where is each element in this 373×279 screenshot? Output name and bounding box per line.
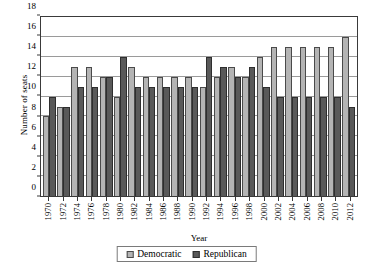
x-tick-label-1996: 1996 xyxy=(230,203,240,220)
caption-strip xyxy=(0,272,373,279)
x-label-cell-1996: 1996 xyxy=(228,201,242,235)
y-tick-mark-12 xyxy=(37,75,40,76)
x-tick-label-1978: 1978 xyxy=(101,203,111,220)
bar-republican-2004 xyxy=(292,97,298,196)
bar-republican-1990 xyxy=(192,87,198,196)
legend-item-democratic[interactable]: Democratic xyxy=(126,249,181,259)
y-tick-mark-14 xyxy=(37,55,40,56)
y-tick-label-4: 4 xyxy=(32,142,37,152)
bar-group-1982 xyxy=(128,17,142,196)
x-tick-label-2000: 2000 xyxy=(259,203,269,220)
bar-group-2008 xyxy=(313,17,327,196)
x-tick-label-1990: 1990 xyxy=(187,203,197,220)
x-tick-label-2004: 2004 xyxy=(287,203,297,220)
y-tick-label-10: 10 xyxy=(27,81,36,91)
y-tick-label-16: 16 xyxy=(27,21,36,31)
x-label-cell-2010: 2010 xyxy=(328,201,342,235)
bar-republican-1984 xyxy=(149,87,155,196)
bar-republican-2006 xyxy=(306,97,312,196)
x-label-cell-2004: 2004 xyxy=(285,201,299,235)
bar-group-2006 xyxy=(299,17,313,196)
bar-republican-1998 xyxy=(249,67,255,196)
chart-legend: DemocraticRepublican xyxy=(116,246,257,262)
x-tick-label-1994: 1994 xyxy=(215,203,225,220)
bar-group-1986 xyxy=(156,17,170,196)
y-tick-label-0: 0 xyxy=(32,182,37,192)
y-tick-label-18: 18 xyxy=(27,1,36,11)
x-label-cell-1974: 1974 xyxy=(70,201,84,235)
x-tick-label-2002: 2002 xyxy=(273,203,283,220)
y-axis-title: Number of seats xyxy=(19,35,29,175)
bar-republican-1976 xyxy=(92,87,98,196)
x-label-cell-2012: 2012 xyxy=(343,201,357,235)
x-tick-label-1984: 1984 xyxy=(144,203,154,220)
bar-group-1976 xyxy=(85,17,99,196)
bar-republican-2012 xyxy=(349,107,355,197)
x-label-cell-1976: 1976 xyxy=(84,201,98,235)
y-tick-label-8: 8 xyxy=(32,102,37,112)
bar-republican-1992 xyxy=(206,57,212,196)
legend-item-republican[interactable]: Republican xyxy=(193,249,247,259)
bar-republican-1978 xyxy=(106,77,112,196)
x-tick-label-1980: 1980 xyxy=(115,203,125,220)
x-label-cell-1992: 1992 xyxy=(199,201,213,235)
bar-group-1992 xyxy=(199,17,213,196)
legend-swatch-icon-dem xyxy=(126,251,133,258)
bar-group-2004 xyxy=(285,17,299,196)
x-label-cell-1990: 1990 xyxy=(185,201,199,235)
x-tick-label-2008: 2008 xyxy=(316,203,326,220)
x-label-cell-2006: 2006 xyxy=(299,201,313,235)
bar-republican-1970 xyxy=(49,97,55,196)
x-tick-label-2012: 2012 xyxy=(345,203,355,220)
x-label-cell-1994: 1994 xyxy=(213,201,227,235)
bar-republican-1988 xyxy=(178,87,184,196)
bar-republican-1982 xyxy=(135,87,141,196)
x-label-cell-2000: 2000 xyxy=(256,201,270,235)
x-tick-label-1976: 1976 xyxy=(86,203,96,220)
y-tick-label-12: 12 xyxy=(27,61,36,71)
bar-republican-1996 xyxy=(235,77,241,196)
plot-area-wrapper: 024681012141618 xyxy=(40,16,358,197)
x-label-cell-1986: 1986 xyxy=(156,201,170,235)
x-tick-label-1988: 1988 xyxy=(172,203,182,220)
y-tick-mark-18 xyxy=(37,15,40,16)
x-axis-title: Year xyxy=(40,233,358,243)
bar-republican-2010 xyxy=(334,97,340,196)
bar-group-2012 xyxy=(342,17,356,196)
x-label-cell-1980: 1980 xyxy=(113,201,127,235)
x-tick-label-1970: 1970 xyxy=(43,203,53,220)
x-label-cell-1998: 1998 xyxy=(242,201,256,235)
bar-group-1984 xyxy=(142,17,156,196)
x-tick-label-1974: 1974 xyxy=(72,203,82,220)
x-label-cell-1972: 1972 xyxy=(55,201,69,235)
x-tick-label-1972: 1972 xyxy=(58,203,68,220)
x-axis-tick-labels: 1970197219741976197819801982198419861988… xyxy=(40,201,358,235)
bar-republican-2008 xyxy=(320,97,326,196)
x-tick-label-2006: 2006 xyxy=(302,203,312,220)
legend-label-democratic: Democratic xyxy=(137,249,181,259)
x-tick-label-1982: 1982 xyxy=(129,203,139,220)
y-tick-label-14: 14 xyxy=(27,41,36,51)
bar-republican-1974 xyxy=(78,87,84,196)
x-tick-label-1986: 1986 xyxy=(158,203,168,220)
bar-group-2000 xyxy=(256,17,270,196)
bar-republican-1972 xyxy=(63,107,69,197)
y-tick-label-2: 2 xyxy=(32,162,37,172)
bar-republican-1980 xyxy=(120,57,126,196)
x-label-cell-1982: 1982 xyxy=(127,201,141,235)
legend-label-republican: Republican xyxy=(204,249,247,259)
bar-republican-1986 xyxy=(163,87,169,196)
bar-group-1978 xyxy=(99,17,113,196)
x-label-cell-1970: 1970 xyxy=(41,201,55,235)
x-label-cell-2002: 2002 xyxy=(271,201,285,235)
bar-republican-1994 xyxy=(220,67,226,196)
y-tick-label-6: 6 xyxy=(32,122,37,132)
y-tick-mark-2 xyxy=(37,175,40,176)
bar-group-1980 xyxy=(113,17,127,196)
bar-group-1996 xyxy=(227,17,241,196)
y-tick-mark-16 xyxy=(37,35,40,36)
bar-group-1970 xyxy=(42,17,56,196)
y-tick-mark-8 xyxy=(37,115,40,116)
bar-group-1990 xyxy=(185,17,199,196)
bar-group-1972 xyxy=(56,17,70,196)
